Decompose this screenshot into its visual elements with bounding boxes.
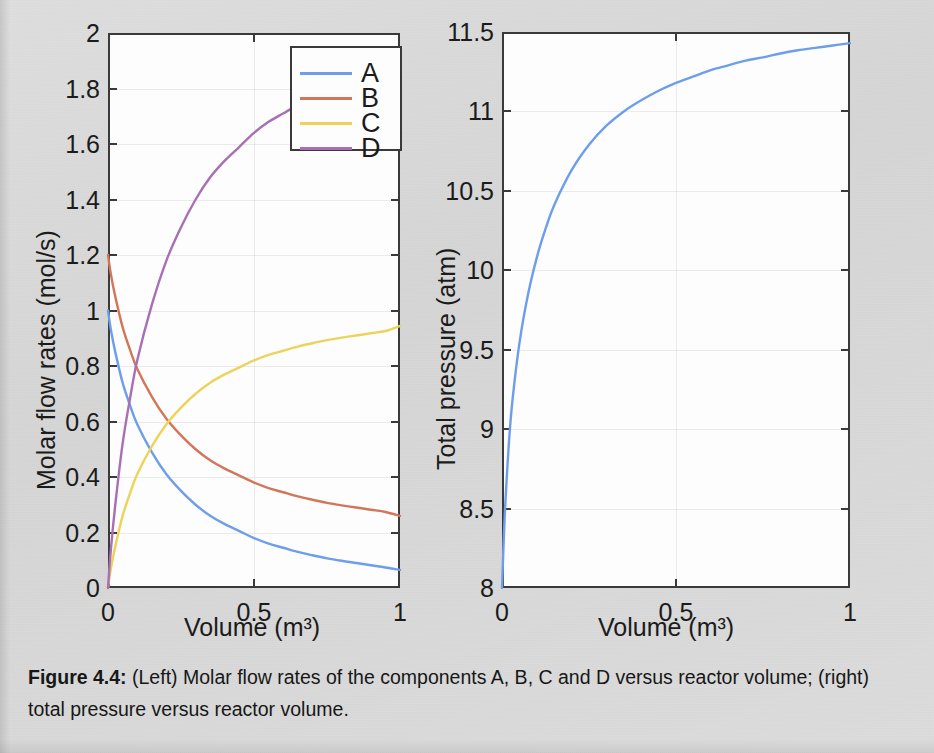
right-plot-total-pressure: 88.599.51010.51111.5 00.51 Total pressur… bbox=[470, 0, 934, 648]
left-plot-molar-flow-rates: 00.20.40.60.811.21.41.61.82 00.51 ABCD M… bbox=[0, 0, 470, 648]
left-plot-y-axis-title: Molar flow rates (mol/s) bbox=[34, 230, 59, 490]
figure-caption-text: (Left) Molar flow rates of the component… bbox=[28, 666, 869, 720]
series-line-b bbox=[108, 255, 400, 516]
legend-swatch-b bbox=[300, 97, 352, 100]
series-line-a bbox=[108, 311, 400, 570]
legend-swatch-d bbox=[300, 147, 352, 150]
right-plot-x-axis-title: Volume (m³) bbox=[598, 615, 734, 640]
series-line-total-pressure bbox=[502, 43, 850, 588]
left-plot-legend: ABCD bbox=[290, 46, 402, 151]
legend-item-d: D bbox=[300, 135, 381, 162]
series-line-c bbox=[108, 326, 400, 588]
right-plot-curves bbox=[470, 0, 934, 648]
left-plot-x-axis-title: Volume (m³) bbox=[184, 615, 320, 640]
figure-caption-label: Figure 4.4: bbox=[28, 666, 127, 688]
page-left-shadow bbox=[0, 0, 10, 753]
figure-area: 00.20.40.60.811.21.41.61.82 00.51 ABCD M… bbox=[0, 0, 934, 648]
right-plot-y-axis-title: Total pressure (atm) bbox=[434, 248, 459, 470]
legend-swatch-c bbox=[300, 122, 352, 125]
page-bottom-shadow bbox=[0, 739, 934, 753]
figure-caption: Figure 4.4: (Left) Molar flow rates of t… bbox=[28, 662, 906, 725]
legend-swatch-a bbox=[300, 72, 352, 75]
legend-label-d: D bbox=[361, 135, 381, 162]
